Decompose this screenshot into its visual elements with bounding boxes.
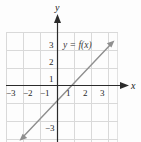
x-tick-pos1: 1 bbox=[66, 89, 71, 98]
x-axis-label: x bbox=[131, 81, 135, 91]
y-tick-pos2: 2 bbox=[49, 58, 54, 67]
y-axis bbox=[54, 14, 61, 142]
y-axis-label: y bbox=[55, 3, 59, 13]
x-tick-neg1: −1 bbox=[40, 89, 50, 98]
x-tick-neg2: −2 bbox=[23, 89, 33, 98]
x-tick-neg3: −3 bbox=[6, 89, 16, 98]
grid-lines bbox=[6, 32, 118, 142]
graph-figure: y x y = f(x) −3 −2 −1 1 2 3 3 2 1 −3 bbox=[0, 0, 141, 142]
function-annotation: y = f(x) bbox=[63, 41, 92, 51]
x-tick-pos3: 3 bbox=[100, 89, 105, 98]
y-tick-pos1: 1 bbox=[49, 75, 54, 84]
y-tick-neg3: −3 bbox=[45, 124, 55, 133]
coordinate-plane bbox=[0, 0, 141, 142]
x-tick-pos2: 2 bbox=[83, 89, 88, 98]
y-tick-pos3: 3 bbox=[49, 41, 54, 50]
